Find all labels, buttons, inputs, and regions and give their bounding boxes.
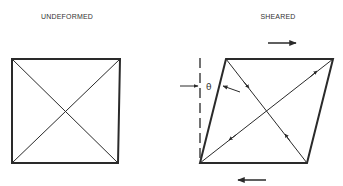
angle-right-arrow-icon — [223, 86, 240, 92]
elongation-arrow-icon — [229, 135, 236, 140]
theta-label: θ — [206, 82, 212, 92]
shear-diagram: UNDEFORMED SHEARED θ — [0, 0, 343, 186]
undeformed-label: UNDEFORMED — [41, 13, 93, 20]
theta-indicator: θ — [180, 82, 240, 92]
compression-arrow-icon — [244, 82, 249, 88]
compression-arrow-icon — [285, 134, 290, 141]
elongation-arrow-icon — [310, 71, 317, 77]
sheared-parallelogram — [200, 58, 333, 163]
sheared-label: SHEARED — [260, 13, 295, 20]
undeformed-square — [12, 59, 120, 163]
